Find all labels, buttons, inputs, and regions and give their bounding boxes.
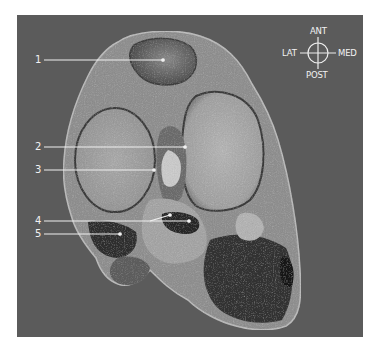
medial-condyle <box>182 92 264 211</box>
lateral-condyle <box>75 108 155 212</box>
compass-label-anterior: ANT <box>310 27 327 36</box>
callout-number-5: 5 <box>35 229 41 239</box>
callout-number-3: 3 <box>35 165 41 175</box>
callout-dot-5 <box>119 233 122 236</box>
callout-number-4: 4 <box>35 216 41 226</box>
orientation-compass <box>300 37 336 69</box>
knee-cross-section-illustration <box>17 15 363 337</box>
specimen <box>63 31 300 330</box>
anatomy-figure: ANT LAT MED POST 1 2 3 4 5 <box>17 15 363 337</box>
compass-label-posterior: POST <box>306 71 328 80</box>
callout-dot-3 <box>153 169 156 172</box>
callout-dot-4b <box>188 220 191 223</box>
compass-label-lateral: LAT <box>282 49 297 58</box>
callout-number-1: 1 <box>35 55 41 65</box>
compass-label-medial: MED <box>338 49 357 58</box>
callout-number-2: 2 <box>35 142 41 152</box>
callout-dot-4a <box>169 214 172 217</box>
callout-dot-1 <box>162 59 165 62</box>
callout-dot-2 <box>184 146 187 149</box>
